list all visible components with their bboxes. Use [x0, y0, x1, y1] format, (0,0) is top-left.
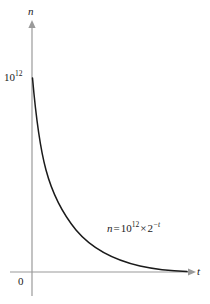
y-tick-mantissa: 10 — [4, 71, 15, 83]
y-axis — [28, 20, 35, 296]
origin-label: 0 — [18, 276, 24, 287]
y-axis-tick-label: 1012 — [4, 70, 23, 83]
x-axis — [10, 268, 196, 275]
y-axis-label: n — [28, 6, 34, 17]
decay-curve-figure: n t 0 1012 n=1012×2−t — [0, 0, 210, 304]
equation-coefficient-mantissa: 10 — [121, 222, 132, 234]
curve-equation-label: n=1012×2−t — [107, 221, 160, 234]
y-tick-exponent: 12 — [15, 69, 23, 78]
equation-lhs: n — [107, 222, 113, 234]
plot-canvas — [0, 0, 210, 304]
x-axis-label: t — [197, 266, 200, 277]
equation-factor-exponent: −t — [153, 220, 160, 229]
decay-curve — [33, 78, 188, 272]
equation-equals: = — [113, 222, 121, 234]
